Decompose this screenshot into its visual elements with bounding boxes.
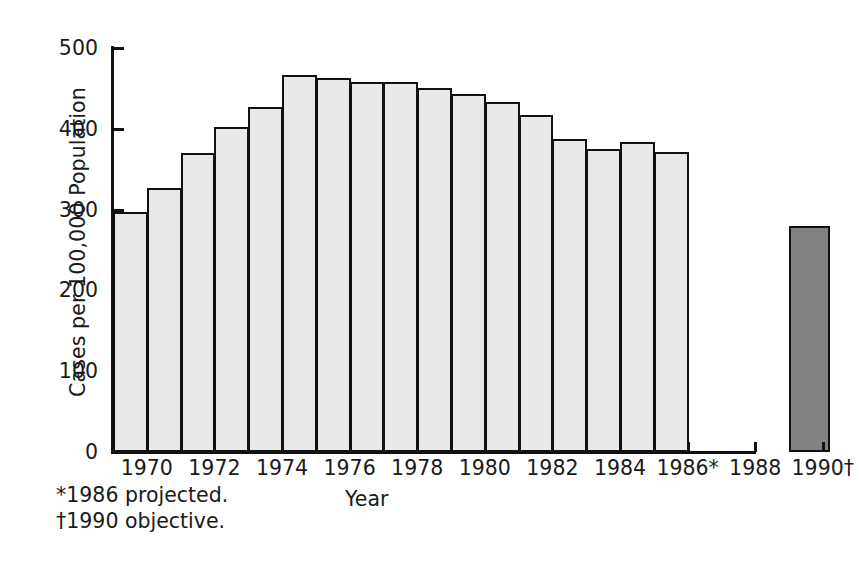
bar-1977 xyxy=(350,82,385,452)
bar-1985 xyxy=(620,142,655,452)
x-axis-tick xyxy=(146,442,149,452)
bar-1990 xyxy=(789,226,830,452)
x-axis-title: Year xyxy=(345,487,388,511)
bar-1976 xyxy=(316,78,351,452)
bar-1975 xyxy=(282,75,317,452)
plot-area xyxy=(113,48,773,452)
bar-1971 xyxy=(147,188,182,452)
y-axis-tick-label: 200 xyxy=(38,280,98,301)
footnote-projected: *1986 projected. xyxy=(56,482,228,508)
bar-1982 xyxy=(519,115,554,452)
x-axis-tick xyxy=(416,442,419,452)
bar-1972 xyxy=(181,153,216,452)
bar-1978 xyxy=(383,82,418,452)
bar-1986 xyxy=(654,152,689,452)
y-axis-tick-label: 500 xyxy=(38,38,98,59)
x-axis-tick-label: 1990† xyxy=(778,458,859,479)
y-axis-tick-label: 400 xyxy=(38,119,98,140)
x-axis-tick xyxy=(213,442,216,452)
x-axis-tick xyxy=(687,442,690,452)
y-axis-tick-label: 0 xyxy=(38,442,98,463)
chart-footnotes: *1986 projected. †1990 objective. xyxy=(56,482,228,534)
bar-1981 xyxy=(485,102,520,452)
x-axis-tick xyxy=(619,442,622,452)
footnote-objective: †1990 objective. xyxy=(56,508,228,534)
x-axis-tick xyxy=(754,442,757,452)
bar-1980 xyxy=(451,94,486,452)
bar-1984 xyxy=(586,149,621,452)
y-axis-tick-label: 100 xyxy=(38,361,98,382)
bar-1973 xyxy=(214,127,249,452)
y-axis-title: Cases per 100,000 Population xyxy=(66,32,90,452)
x-axis-tick xyxy=(349,442,352,452)
bar-1983 xyxy=(552,139,587,452)
x-axis-tick xyxy=(551,442,554,452)
x-axis-tick xyxy=(822,442,825,452)
x-axis-tick xyxy=(281,442,284,452)
bar-1970 xyxy=(113,212,148,452)
y-axis-tick-label: 300 xyxy=(38,200,98,221)
x-axis-tick xyxy=(484,442,487,452)
bar-1979 xyxy=(417,88,452,452)
bar-1974 xyxy=(248,107,283,452)
